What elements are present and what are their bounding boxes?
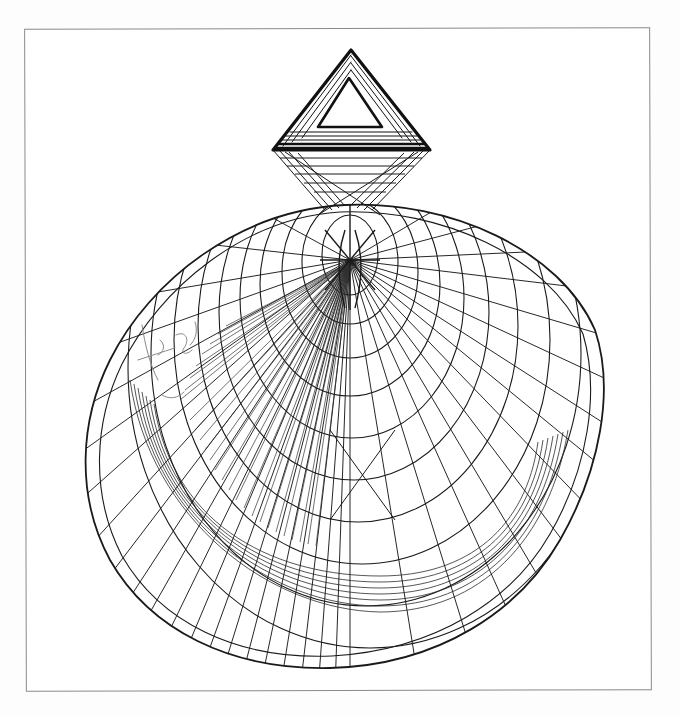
shell-group: [60, 88, 630, 690]
concentric-arcs: [128, 88, 612, 648]
triangle-group: [273, 50, 430, 150]
paper-background: Hand-drawn ink line drawing of a stylize…: [0, 0, 680, 717]
handwritten-scribble: [138, 322, 196, 398]
line-drawing: [0, 0, 680, 717]
